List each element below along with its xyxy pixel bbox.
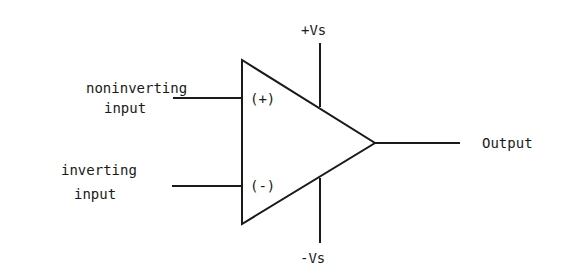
op-amp-triangle — [242, 60, 375, 224]
noninverting-sign: (+) — [250, 91, 275, 107]
inverting-label-line2: input — [74, 186, 116, 202]
positive-supply-label: +Vs — [301, 22, 326, 38]
negative-supply-label: -Vs — [300, 250, 325, 266]
noninverting-label-line1: noninverting — [86, 80, 187, 96]
inverting-label-line1: inverting — [61, 162, 137, 178]
op-amp-diagram: noninverting input inverting input (+) (… — [0, 0, 571, 280]
output-label: Output — [482, 135, 533, 151]
inverting-sign: (-) — [250, 178, 275, 194]
noninverting-label-line2: input — [104, 100, 146, 116]
